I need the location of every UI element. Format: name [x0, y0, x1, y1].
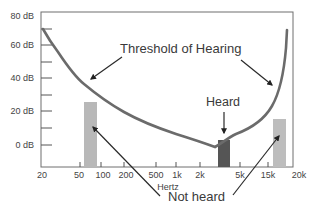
- y-tick-40: 40 dB: [0, 73, 34, 83]
- x-tick-20k: 20k: [292, 170, 307, 180]
- x-tick-2k: 2k: [195, 170, 205, 180]
- y-tick-80: 80 dB: [0, 11, 34, 21]
- threshold-arrow-left: [91, 57, 122, 79]
- not-heard-label: Not heard: [168, 190, 225, 203]
- y-tick-0: 0 dB: [0, 140, 34, 150]
- heard-label: Heard: [206, 96, 240, 109]
- x-tick-500: 500: [148, 170, 163, 180]
- x-axis-ticks: [80, 162, 268, 167]
- threshold-label: Threshold of Hearing: [120, 42, 241, 55]
- x-tick-200: 200: [118, 170, 133, 180]
- y-tick-60: 60 dB: [0, 40, 34, 50]
- y-axis-ticks: [41, 29, 52, 145]
- threshold-arrow-right: [241, 60, 272, 85]
- y-tick-20: 20 dB: [0, 106, 34, 116]
- bar-not-heard-high: [273, 119, 286, 167]
- x-tick-50: 50: [74, 170, 84, 180]
- x-tick-1k: 1k: [172, 170, 182, 180]
- x-tick-5k: 5k: [235, 170, 245, 180]
- x-tick-15k: 15k: [261, 170, 276, 180]
- bar-not-heard-low: [84, 102, 97, 167]
- x-tick-100: 100: [95, 170, 110, 180]
- not-heard-arrow-left: [93, 127, 160, 196]
- x-tick-20: 20: [37, 170, 47, 180]
- plot-frame: [41, 12, 293, 167]
